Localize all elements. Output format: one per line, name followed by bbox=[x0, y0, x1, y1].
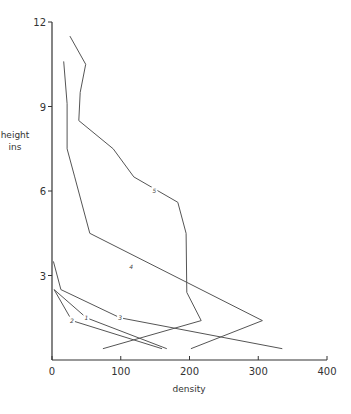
y-tick-label: 3 bbox=[40, 271, 46, 282]
density-height-chart: 010020030040036912densityheightins 12345 bbox=[0, 0, 351, 414]
curve-label-5: 5 bbox=[153, 187, 157, 194]
curve-label-1: 1 bbox=[84, 314, 88, 321]
x-axis-title: density bbox=[173, 384, 207, 394]
y-axis-title: ins bbox=[9, 142, 22, 152]
x-tick-label: 300 bbox=[249, 366, 268, 377]
curve-3 bbox=[53, 261, 282, 348]
curve-label-2: 2 bbox=[70, 317, 74, 324]
curve-5 bbox=[70, 36, 201, 349]
curve-label-4: 4 bbox=[129, 263, 133, 270]
y-tick-label: 9 bbox=[40, 102, 46, 113]
y-tick-label: 12 bbox=[33, 17, 46, 28]
x-tick-label: 0 bbox=[49, 366, 55, 377]
curves bbox=[53, 36, 282, 349]
labels: 12345 bbox=[69, 187, 158, 324]
y-tick-label: 6 bbox=[40, 186, 46, 197]
axes: 010020030040036912densityheightins bbox=[1, 17, 337, 394]
x-tick-label: 100 bbox=[111, 366, 130, 377]
y-axis-title: height bbox=[1, 130, 30, 140]
x-tick-label: 200 bbox=[180, 366, 199, 377]
x-tick-label: 400 bbox=[317, 366, 336, 377]
curve-label-3: 3 bbox=[118, 314, 122, 321]
